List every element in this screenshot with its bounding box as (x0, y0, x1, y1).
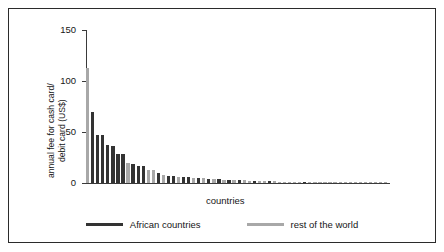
bar (142, 166, 145, 183)
bar (333, 182, 336, 183)
chart-legend: African countries rest of the world (0, 219, 444, 230)
bar (344, 182, 347, 183)
bar (323, 182, 326, 183)
bar (187, 177, 190, 183)
bar (374, 182, 377, 183)
bar (298, 182, 301, 183)
bar (268, 181, 271, 183)
y-tick-label: 0 (46, 177, 76, 188)
bar (354, 182, 357, 183)
bar (364, 182, 367, 183)
bar (101, 135, 104, 183)
bar (238, 180, 241, 183)
bar (162, 175, 165, 183)
bar (293, 182, 296, 183)
bar (192, 178, 195, 183)
bar (339, 182, 342, 183)
bar (207, 179, 210, 183)
y-tick-label: 50 (46, 126, 76, 137)
bar (278, 182, 281, 183)
bar (227, 180, 230, 183)
bar (182, 177, 185, 183)
bar (167, 176, 170, 183)
bar (96, 135, 99, 183)
bar (232, 180, 235, 183)
bar (121, 154, 124, 183)
bar (131, 164, 134, 183)
bar (222, 180, 225, 183)
bar (91, 112, 94, 183)
bar (172, 176, 175, 183)
bar (217, 179, 220, 183)
bar (248, 181, 251, 183)
bar (126, 163, 129, 183)
legend-swatch-african (86, 223, 123, 226)
bar-series-group (86, 30, 389, 183)
bar (369, 182, 372, 183)
bar (86, 68, 89, 183)
legend-item-rest-of-world: rest of the world (247, 219, 359, 230)
bar (328, 182, 331, 183)
bar (379, 182, 382, 183)
bar (177, 177, 180, 183)
bar (147, 170, 150, 183)
bar (288, 182, 291, 183)
legend-swatch-rest-of-world (247, 223, 284, 226)
legend-item-african: African countries (86, 219, 201, 230)
bar (243, 180, 246, 183)
bar (303, 182, 306, 183)
y-tick-label: 100 (46, 75, 76, 86)
bar (273, 181, 276, 183)
x-axis-line (86, 183, 390, 184)
bar (349, 182, 352, 183)
y-tick-label: 150 (46, 24, 76, 35)
bar (106, 145, 109, 183)
bar (318, 182, 321, 183)
legend-label-rest-of-world: rest of the world (291, 219, 359, 230)
bar (116, 154, 119, 183)
bar (137, 166, 140, 183)
bar (111, 146, 114, 183)
bar (283, 182, 286, 183)
bar (157, 173, 160, 183)
bar (152, 170, 155, 183)
bar (359, 182, 362, 183)
bar (253, 181, 256, 183)
bar (258, 181, 261, 183)
bar (202, 178, 205, 183)
bar (263, 181, 266, 183)
legend-label-african: African countries (130, 219, 201, 230)
bar (313, 182, 316, 183)
bar (197, 178, 200, 183)
bar (212, 179, 215, 183)
x-axis-label: countries (206, 195, 245, 206)
y-tick-mark (82, 183, 86, 184)
bar (308, 182, 311, 183)
bar (384, 182, 387, 183)
chart-plot-area: annual fee for cash card/ debit card (US… (0, 0, 444, 252)
